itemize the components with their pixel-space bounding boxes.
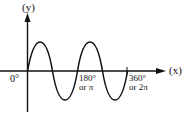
x-axis-label: (x) — [169, 65, 182, 76]
sine-wave-diagram — [0, 0, 194, 117]
y-axis-label: (y) — [22, 2, 35, 13]
origin-label: 0° — [10, 74, 19, 84]
tick-180-label-line2: or π — [79, 83, 93, 92]
y-axis-arrow-icon — [25, 13, 31, 22]
x-axis-arrow-icon — [156, 68, 166, 74]
tick-360-label-line2: or 2π — [129, 83, 148, 92]
